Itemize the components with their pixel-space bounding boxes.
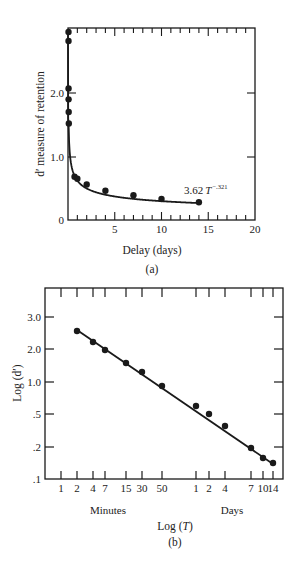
y-tick-label: 3.0 (27, 311, 41, 323)
data-point (74, 328, 80, 334)
data-point (222, 423, 228, 429)
x-axis-title-b: Log (T) (157, 520, 193, 533)
plot-frame-b (45, 288, 283, 479)
data-point (193, 403, 199, 409)
data-point (65, 38, 71, 44)
data-points-a (65, 29, 202, 206)
y-tick-label: 2.0 (50, 87, 64, 99)
x-tick-label: 30 (137, 482, 149, 494)
data-point (74, 176, 80, 182)
panel-a: 01.02.0 5101520 3.62T−.321 Delay (days) … (34, 28, 261, 276)
y-ticks-b: 3.02.01.0.5.2.1 (27, 311, 283, 485)
x-tick-label: 15 (121, 482, 133, 494)
group-label-days: Days (221, 504, 244, 516)
x-tick-label: 2 (74, 482, 80, 494)
data-point (90, 339, 96, 345)
y-ticks-a: 01.02.0 (50, 87, 255, 226)
x-ticks-b: 124715305012471014 (58, 288, 279, 494)
data-point (123, 360, 129, 366)
y-tick-label: 0 (59, 214, 65, 226)
y-tick-label: .2 (33, 441, 41, 453)
equation-annotation: 3.62T−.321 (184, 183, 227, 196)
data-point (66, 120, 72, 126)
data-point (158, 196, 164, 202)
x-tick-label: 20 (250, 223, 262, 235)
y-axis-title-a: d′ measure of retention (34, 71, 46, 177)
data-point (139, 369, 145, 375)
x-axis-title-a: Delay (days) (122, 244, 181, 257)
x-tick-label: 1 (193, 482, 199, 494)
data-point (206, 411, 212, 417)
data-point (159, 383, 165, 389)
x-tick-label: 10 (156, 223, 168, 235)
data-point (260, 455, 266, 461)
plot-frame-a (68, 28, 255, 220)
panel-b: 124715305012471014 3.02.01.0.5.2.1 Minut… (11, 288, 283, 549)
y-tick-label: 2.0 (27, 343, 41, 355)
data-point (102, 188, 108, 194)
data-point (65, 109, 71, 115)
y-tick-label: .1 (33, 473, 41, 485)
data-point (196, 199, 202, 205)
panel-caption-a: (a) (146, 263, 159, 276)
data-point (65, 96, 71, 102)
x-tick-label: 5 (112, 223, 118, 235)
data-point (130, 192, 136, 198)
x-tick-label: 4 (222, 482, 228, 494)
group-label-minutes: Minutes (90, 504, 126, 516)
panel-caption-b: (b) (168, 536, 182, 549)
x-tick-label: 1 (58, 482, 64, 494)
x-tick-label: 15 (203, 223, 215, 235)
y-tick-label: .5 (33, 408, 42, 420)
x-tick-label: 14 (268, 482, 280, 494)
y-tick-label: 1.0 (27, 376, 41, 388)
data-point (65, 85, 71, 91)
data-point (65, 29, 71, 35)
x-tick-label: 4 (90, 482, 96, 494)
fit-curve-a (68, 30, 199, 204)
data-point (270, 460, 276, 466)
x-tick-labels-a: 5101520 (112, 223, 261, 235)
y-tick-label: 1.0 (50, 151, 64, 163)
x-tick-label: 7 (248, 482, 254, 494)
data-point (102, 347, 108, 353)
x-tick-label: 7 (102, 482, 108, 494)
y-axis-title-b: Log (d′) (11, 364, 24, 401)
figure: 01.02.0 5101520 3.62T−.321 Delay (days) … (0, 0, 296, 570)
data-point (248, 445, 254, 451)
x-tick-label: 50 (157, 482, 169, 494)
x-tick-label: 2 (206, 482, 212, 494)
data-point (84, 181, 90, 187)
